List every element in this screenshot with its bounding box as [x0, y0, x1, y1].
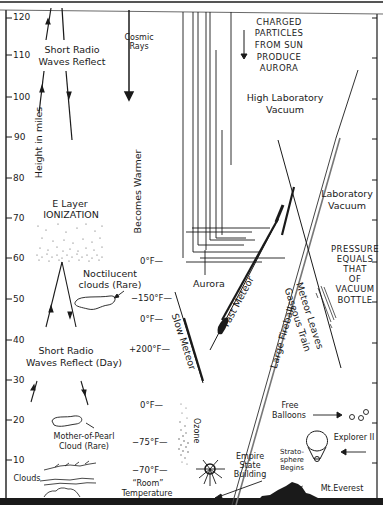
charged-particles-line3: FROM SUN	[244, 40, 314, 50]
y-axis-ticks	[6, 18, 12, 460]
noctilucent-line2: clouds (Rare)	[75, 279, 145, 290]
y-axis-title: Height in miles	[33, 93, 44, 193]
free-balloons-icon	[350, 410, 369, 421]
y-tick-50: 50	[13, 294, 24, 304]
atmosphere-diagram: 120 110 100 90 80 70 60 50 40 30 20 10 H…	[0, 0, 383, 505]
y-tick-60: 60	[13, 253, 24, 263]
mother-of-pearl-arrow	[86, 423, 94, 428]
y-tick-10: 10	[13, 455, 24, 465]
y-tick-100: 100	[13, 92, 30, 102]
charged-particles-line5: AURORA	[244, 63, 314, 73]
pressure-line4: OF	[330, 274, 380, 284]
empire-state-burst-icon	[196, 460, 225, 486]
noctilucent-arrow	[114, 291, 124, 298]
room-temp-line1: “Room”	[118, 479, 178, 489]
pressure-line3: THAT	[330, 264, 380, 274]
charged-particles-line1: CHARGED	[244, 17, 314, 27]
lab-vacuum-line2: Vacuum	[316, 200, 378, 211]
y-tick-20: 20	[13, 415, 24, 425]
cosmic-rays-arrow	[125, 10, 133, 100]
y-tick-110: 110	[13, 50, 30, 60]
stratosphere-line1: Strato-	[274, 448, 310, 456]
fast-meteor-segment	[276, 205, 283, 222]
right-axis-ticks	[372, 18, 377, 463]
y-tick-120: 120	[13, 12, 30, 22]
ozone-label: Ozone	[191, 413, 201, 449]
noctilucent-line1: Noctilucent	[75, 268, 145, 279]
short-radio-day-line2: Waves Reflect (Day)	[16, 357, 132, 368]
y-tick-90: 90	[14, 132, 25, 142]
mother-of-pearl-line2: Cloud (Rare)	[44, 442, 124, 452]
temp-minus70f: −70°F—	[132, 465, 168, 475]
y-tick-40: 40	[13, 335, 24, 345]
temp-minus150f: −150°F—	[131, 293, 172, 303]
ground-clouds-icon	[40, 461, 96, 497]
e-layer-line2: IONIZATION	[36, 209, 106, 220]
lab-vacuum-line1: Laboratory	[316, 188, 378, 199]
short-radio-day-line1: Short Radio	[26, 345, 106, 356]
pressure-line5: VACUUM	[330, 284, 380, 294]
y-tick-70: 70	[13, 213, 24, 223]
charged-particles-line4: PRODUCE	[244, 52, 314, 62]
free-balloons-line2: Balloons	[264, 411, 314, 421]
stratosphere-line3: Begins	[274, 464, 310, 472]
high-lab-vacuum-line2: Vacuum	[240, 104, 330, 115]
mother-of-pearl-cloud-icon	[52, 416, 82, 426]
room-temp-line2: Temperature	[112, 489, 182, 499]
free-balloons-line1: Free	[270, 401, 310, 411]
ground-band	[0, 498, 383, 505]
explorer-arrow	[341, 449, 366, 455]
cosmic-rays-line2: Rays	[120, 42, 158, 52]
stratosphere-line2: sphere	[274, 456, 310, 464]
y-tick-80: 80	[13, 173, 24, 183]
temp-0f-mid: 0°F—	[140, 314, 163, 324]
free-balloons-arrow	[313, 412, 342, 418]
temp-plus200f: +200°F—	[129, 344, 170, 354]
explorer-label: Explorer II	[330, 433, 378, 443]
aurora-label: Aurora	[184, 278, 234, 289]
mt-everest-label: Mt.Everest	[312, 484, 372, 494]
mother-of-pearl-line1: Mother-of-Pearl	[44, 432, 124, 442]
radio-waves-high	[39, 8, 72, 140]
high-lab-vacuum-line1: High Laboratory	[240, 92, 330, 103]
empire-state-line3: Building	[228, 470, 272, 480]
pressure-line1: PRESSURE	[330, 244, 380, 254]
temp-minus75f: −75°F—	[132, 437, 168, 447]
e-layer-dots	[36, 223, 102, 261]
y-tick-30: 30	[13, 375, 24, 385]
pressure-line6: BOTTLE	[330, 295, 380, 305]
ozone-dots	[178, 403, 189, 464]
charged-particles-line2: PARTICLES	[244, 28, 314, 38]
short-radio-high-line1: Short Radio	[32, 44, 112, 55]
temp-0f-upper: 0°F—	[140, 256, 163, 266]
e-layer-line1: E Layer	[40, 198, 100, 209]
clouds-label: Clouds	[9, 474, 45, 484]
temp-0f-lower: 0°F—	[140, 400, 163, 410]
noctilucent-cloud-icon	[75, 296, 115, 310]
pressure-line2: EQUALS	[330, 254, 380, 264]
becomes-warmer-label: Becomes Warmer	[132, 147, 143, 237]
short-radio-high-line2: Waves Reflect	[32, 56, 112, 67]
